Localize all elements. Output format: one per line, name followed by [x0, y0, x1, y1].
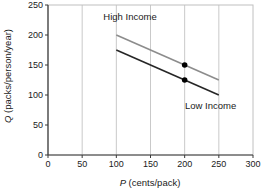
- y-axis-units: (packs/person/year): [2, 29, 13, 116]
- series-lines: [116, 35, 218, 95]
- x-tick-label: 150: [143, 159, 158, 169]
- y-tick-label: 0: [38, 150, 43, 160]
- x-tick-label: 100: [109, 159, 124, 169]
- x-axis-title: P (cents/pack): [120, 177, 181, 188]
- x-axis-units: (cents/pack): [126, 177, 180, 188]
- y-tick-label: 50: [33, 120, 43, 130]
- x-tick-label: 50: [77, 159, 87, 169]
- series-label-low-income: Low Income: [185, 100, 236, 111]
- series-annotations: High IncomeLow Income: [103, 11, 236, 111]
- y-tick-label: 250: [28, 0, 43, 10]
- x-tick-label: 300: [245, 159, 260, 169]
- line-chart: 050100150200250300050100150200250 High I…: [0, 0, 262, 196]
- x-tick-label: 200: [177, 159, 192, 169]
- y-tick-label: 150: [28, 60, 43, 70]
- series-label-high-income: High Income: [103, 11, 156, 22]
- x-tick-label: 0: [45, 159, 50, 169]
- x-tick-label: 250: [211, 159, 226, 169]
- data-point-marker-low-income: [182, 77, 188, 83]
- axis-ticks: 050100150200250300050100150200250: [28, 0, 261, 169]
- gridlines: [82, 5, 219, 155]
- y-tick-label: 100: [28, 90, 43, 100]
- y-axis-title: Q (packs/person/year): [2, 29, 13, 123]
- y-tick-label: 200: [28, 30, 43, 40]
- demand-curves-chart-figure: 050100150200250300050100150200250 High I…: [0, 0, 262, 196]
- data-point-marker-high-income: [182, 62, 188, 68]
